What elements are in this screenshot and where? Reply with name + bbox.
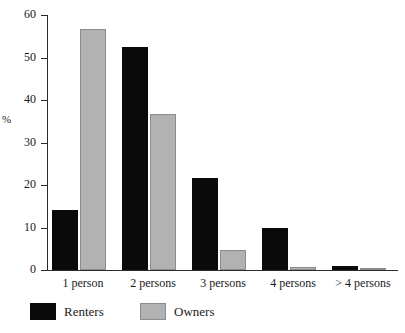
x-axis-line	[47, 270, 398, 271]
y-tick-mark	[41, 143, 48, 144]
bar-owners-1	[150, 114, 176, 270]
y-tick-label: 10	[0, 221, 36, 233]
y-tick-mark	[41, 58, 48, 59]
bar-renters-0	[52, 210, 78, 270]
x-axis-label-4: > 4 persons	[320, 276, 405, 290]
bar-chart: % 0102030405060 1 person2 persons3 perso…	[0, 0, 405, 333]
chart-legend: Renters Owners	[0, 303, 405, 331]
legend-item-renters: Renters	[30, 303, 104, 320]
bar-owners-3	[290, 267, 316, 270]
bar-owners-4	[360, 268, 386, 270]
bar-owners-0	[80, 29, 106, 270]
y-tick-label: 30	[0, 136, 36, 148]
y-tick-mark	[41, 270, 48, 271]
legend-swatch-renters-icon	[30, 303, 56, 320]
bar-owners-2	[220, 250, 246, 270]
y-tick-mark	[41, 100, 48, 101]
legend-label-owners: Owners	[174, 303, 214, 320]
bar-renters-2	[192, 178, 218, 270]
y-tick-label: 40	[0, 93, 36, 105]
y-tick-mark	[41, 185, 48, 186]
y-tick-label: 20	[0, 178, 36, 190]
y-axis-label: %	[2, 113, 11, 125]
y-tick-mark	[41, 15, 48, 16]
y-tick-label: 0	[0, 263, 36, 275]
y-tick-label: 60	[0, 8, 36, 20]
y-tick-mark	[41, 228, 48, 229]
legend-swatch-owners-icon	[140, 303, 166, 320]
bar-renters-4	[332, 266, 358, 270]
bar-renters-1	[122, 47, 148, 270]
legend-label-renters: Renters	[64, 303, 104, 320]
bar-renters-3	[262, 228, 288, 271]
y-tick-label: 50	[0, 51, 36, 63]
plot-area	[48, 15, 398, 270]
legend-item-owners: Owners	[140, 303, 214, 320]
